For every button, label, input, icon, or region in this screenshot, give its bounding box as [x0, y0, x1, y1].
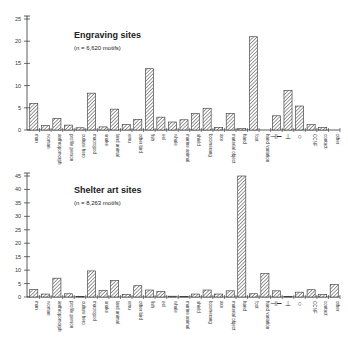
bar — [307, 290, 315, 297]
bar — [296, 292, 304, 297]
category-label: macropod — [92, 134, 97, 155]
category-label: eel — [161, 301, 166, 307]
bar — [41, 294, 49, 297]
svg-text:30: 30 — [15, 213, 21, 219]
svg-text:25: 25 — [15, 16, 21, 22]
svg-text:15: 15 — [15, 254, 21, 260]
bar-plot: 0510152025manwomananthropomorphprofile p… — [0, 0, 348, 170]
bar-plot: 051015202530354045manwomananthropomorphp… — [0, 170, 348, 351]
bar — [215, 294, 223, 297]
bar — [134, 119, 142, 130]
bar — [215, 127, 223, 130]
category-label: shield — [196, 301, 201, 313]
category-label: whale — [173, 134, 178, 146]
svg-text:45: 45 — [15, 173, 21, 179]
bar — [122, 125, 130, 130]
category-label: man — [34, 301, 39, 310]
category-label: ⊣⊢ — [270, 300, 282, 307]
category-label: emu — [127, 301, 132, 310]
svg-text:5: 5 — [18, 105, 21, 111]
category-label: axe — [219, 134, 224, 142]
bar — [157, 117, 165, 130]
bar — [249, 37, 257, 130]
category-label: land animal — [115, 134, 120, 157]
category-label: emu — [127, 134, 132, 143]
bar — [88, 93, 96, 130]
bar — [330, 285, 338, 297]
bar — [64, 125, 72, 130]
category-label: boomerang — [208, 134, 213, 157]
bar — [76, 128, 84, 130]
category-label: ⊥ — [285, 300, 291, 307]
bar — [192, 294, 200, 297]
bar — [296, 106, 304, 130]
category-label: land animal — [115, 301, 120, 324]
category-label: snake — [104, 301, 109, 314]
svg-text:5: 5 — [18, 281, 21, 287]
bar — [111, 281, 119, 297]
chart-title: Shelter art sites — [74, 185, 142, 195]
category-label: contact — [323, 301, 328, 316]
bar — [238, 129, 246, 130]
bar — [134, 286, 142, 297]
category-label: ○ — [297, 133, 301, 140]
bar — [307, 125, 315, 130]
bar — [249, 294, 257, 297]
category-label: boomerang — [208, 301, 213, 324]
category-label: other bird — [138, 301, 143, 321]
category-label: culture hero — [81, 301, 86, 325]
category-label: shield — [196, 134, 201, 146]
chart-subtitle: (n = 8,263 motifs) — [74, 200, 121, 206]
bar — [168, 296, 176, 297]
bar — [145, 290, 153, 297]
bar — [157, 291, 165, 297]
category-label: anthropomorph — [57, 301, 62, 332]
bar — [261, 274, 269, 297]
bar — [272, 291, 280, 297]
category-label: material object — [231, 134, 236, 164]
svg-text:25: 25 — [15, 227, 21, 233]
bar — [272, 116, 280, 130]
bar — [203, 290, 211, 297]
svg-text:40: 40 — [15, 186, 21, 192]
bar — [145, 69, 153, 130]
category-label: eel — [161, 134, 166, 140]
bar — [122, 294, 130, 297]
bar — [319, 295, 327, 297]
category-label: foot — [254, 134, 259, 142]
svg-text:35: 35 — [15, 200, 21, 206]
svg-text:15: 15 — [15, 60, 21, 66]
category-label: material object — [231, 301, 236, 331]
category-label: man — [34, 134, 39, 143]
svg-text:20: 20 — [15, 38, 21, 44]
category-label: other — [335, 301, 340, 312]
bar — [180, 296, 188, 297]
category-label: marine animal — [185, 134, 190, 162]
category-label: other bird — [138, 134, 143, 154]
category-label: ⊥ — [285, 133, 291, 140]
category-label: hand — [242, 301, 247, 312]
category-label: marine animal — [185, 301, 190, 329]
category-label: culture hero — [81, 134, 86, 158]
category-label: profile person — [69, 134, 74, 162]
category-label: other — [335, 134, 340, 145]
category-label: woman — [46, 134, 51, 149]
category-label: contact — [323, 134, 328, 149]
bar — [226, 291, 234, 297]
bar — [41, 126, 49, 130]
bar — [284, 90, 292, 130]
bar — [76, 296, 84, 297]
svg-text:20: 20 — [15, 240, 21, 246]
category-label: fish — [150, 301, 155, 309]
bar — [284, 296, 292, 297]
category-label: woman — [46, 301, 51, 316]
svg-text:10: 10 — [15, 83, 21, 89]
svg-text:0: 0 — [18, 294, 21, 300]
bar — [203, 108, 211, 130]
bar — [168, 122, 176, 130]
bar — [30, 289, 38, 297]
bar — [53, 278, 61, 297]
category-label: CCNF — [312, 301, 317, 314]
bar — [88, 271, 96, 297]
chart-title: Engraving sites — [74, 30, 141, 40]
